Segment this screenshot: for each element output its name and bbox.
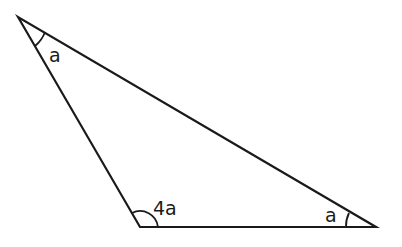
triangle-diagram: a 4a a bbox=[0, 0, 402, 247]
angle-arc-top-left bbox=[35, 32, 45, 46]
triangle-outline bbox=[18, 17, 376, 227]
angle-label-bottom-left: 4a bbox=[153, 197, 177, 219]
angle-arc-bottom-right bbox=[346, 213, 349, 227]
angle-label-top-left: a bbox=[49, 44, 61, 66]
angle-label-bottom-right: a bbox=[325, 204, 337, 226]
